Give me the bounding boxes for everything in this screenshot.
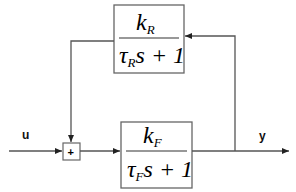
feedback-transfer-block: kR τRs + 1 — [114, 5, 185, 73]
input-label: u — [22, 128, 29, 142]
summer-plus-sign: + — [68, 146, 74, 158]
output-label: y — [259, 129, 266, 143]
block-diagram: u + kF τFs + 1 y kR τRs + 1 — [0, 0, 296, 192]
forward-transfer-block: kF τFs + 1 — [121, 122, 193, 188]
feedback-return-line — [71, 41, 114, 142]
summing-junction: + — [63, 143, 80, 160]
